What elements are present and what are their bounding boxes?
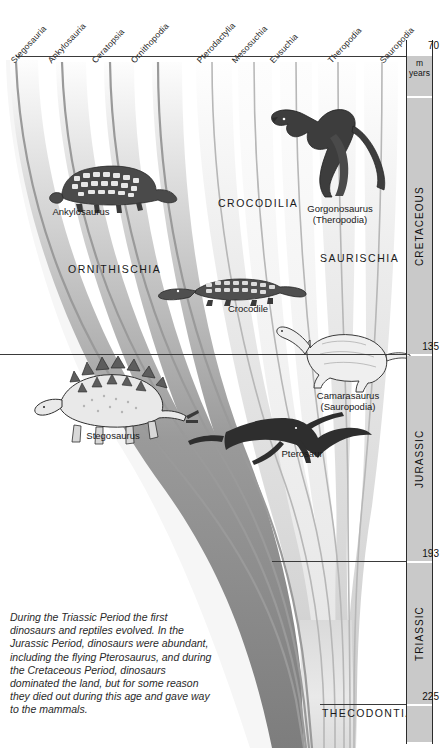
evolution-chart: Stegosauria Ankylosauria Ceratopsia Orni… [0,0,446,748]
rule-193 [272,561,406,562]
group-label-saurischia: SAURISCHIA [320,252,399,264]
period-band-myears: m years [407,56,432,96]
caption-text: During the Triassic Period the first din… [10,611,215,717]
genus-sub-camarasaurus: (Sauropodia) [293,401,403,412]
axis-tick-225: 225 [422,691,439,702]
axis-tick-193: 193 [422,548,439,559]
genus-label-pterosaur: Pterosaur [259,448,345,459]
period-band-jurassic: JURASSIC [407,356,432,561]
axis-tick-135: 135 [422,341,439,352]
rule-225 [320,704,406,705]
genus-name-crocodile: Crocodile [203,303,293,314]
group-label-ornithischia: ORNITHISCHIA [68,263,161,275]
genus-name-pterosaur: Pterosaur [259,448,345,459]
genus-label-stegosaurus: Stegosaurus [66,430,160,441]
genus-name-stegosaurus: Stegosaurus [66,430,160,441]
period-band-triassic: TRIASSIC [407,563,432,704]
axis-unit-line1: m [416,58,423,68]
axis-unit-line2: years [409,68,430,78]
genus-sub-gorgonosaurus: (Theropodia) [285,214,395,225]
period-name-triassic: TRIASSIC [407,563,432,704]
genus-name-camarasaurus: Camarasaurus [293,390,403,401]
period-name-jurassic: JURASSIC [407,356,432,561]
genus-name-gorgonosaurus: Gorgonosaurus [285,203,395,214]
period-name-cretaceous: CRETACEOUS [407,98,432,354]
branch-thecodontia-root [300,620,356,748]
genus-label-gorgonosaurus: Gorgonosaurus (Theropodia) [285,203,395,225]
period-band-pre-triassic [407,706,432,742]
geologic-period-column: m years CRETACEOUS JURASSIC TRIASSIC [406,40,433,744]
period-band-cretaceous: CRETACEOUS [407,98,432,354]
rule-135 [0,354,406,355]
genus-label-ankylosaurus: Ankylosaurus [36,206,126,217]
axis-tick-70: 70 [428,40,439,51]
group-label-thecodontia: THECODONTIA [322,707,414,719]
genus-label-crocodile: Crocodile [203,303,293,314]
genus-label-camarasaurus: Camarasaurus (Sauropodia) [293,390,403,412]
rule-top-70 [16,56,406,57]
genus-name-ankylosaurus: Ankylosaurus [36,206,126,217]
axis-unit-label: m years [407,56,432,78]
